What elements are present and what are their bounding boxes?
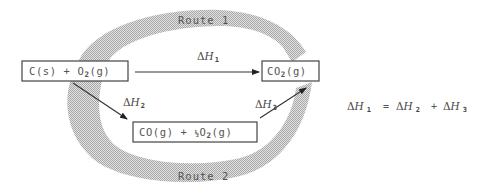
dh3-label: ΔH3	[255, 98, 277, 112]
route1-label: Route 1	[178, 14, 229, 26]
hess-cycle-diagram: Route 1 Route 2 C(s) + O2(g) CO2(g) CO(g…	[0, 0, 485, 189]
reactants-box: C(s) + O2(g)	[22, 61, 128, 81]
equals-sign: =	[383, 101, 389, 112]
intermediate-label: CO(g) + ½O2(g)	[139, 126, 232, 140]
route2-label: Route 2	[178, 170, 229, 182]
intermediate-box: CO(g) + ½O2(g)	[133, 122, 257, 142]
equation-term1: ΔH2	[396, 100, 420, 114]
product-box: CO2(g)	[262, 61, 319, 81]
hess-law-equation: ΔH1 = ΔH2 + ΔH3	[347, 100, 467, 114]
dh2-label: ΔH2	[123, 96, 145, 110]
plus-sign: +	[431, 101, 437, 112]
equation-term2: ΔH3	[443, 100, 467, 114]
dh1-label: ΔH1	[197, 50, 219, 64]
reactants-label: C(s) + O2(g)	[29, 65, 110, 79]
equation-lhs: ΔH1	[347, 100, 371, 114]
product-label: CO2(g)	[267, 65, 307, 79]
